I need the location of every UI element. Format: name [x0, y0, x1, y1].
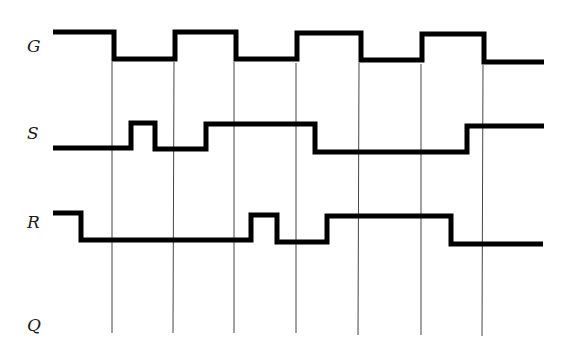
timing-diagram: G S R Q [0, 0, 568, 349]
reference-line [358, 63, 359, 335]
waveform-g [53, 32, 544, 62]
signal-label-g: G [27, 36, 41, 56]
signal-label-r: R [26, 212, 40, 232]
reference-line [482, 65, 483, 336]
signal-label-q: Q [27, 315, 41, 335]
waveform-r [53, 213, 543, 244]
clock-reference-lines [112, 62, 483, 336]
reference-line [173, 62, 174, 333]
signal-label-s: S [27, 123, 39, 143]
waveform-s [53, 123, 544, 152]
